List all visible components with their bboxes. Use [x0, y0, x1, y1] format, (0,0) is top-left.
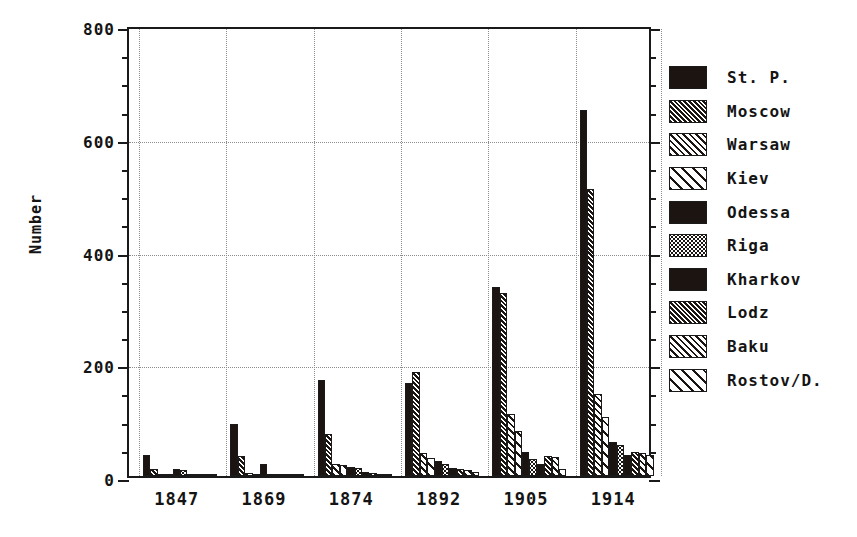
- y-axis-major-tick: [118, 29, 129, 31]
- bar-1874-kharkov: [362, 472, 369, 477]
- bar-1914-odessa: [609, 442, 616, 476]
- legend-label: Kiev: [727, 169, 770, 188]
- bar-1847-kiev: [165, 474, 172, 476]
- legend-swatch: [669, 201, 707, 224]
- bar-1914-baku: [639, 453, 646, 476]
- legend-swatch: [669, 369, 707, 392]
- bar-1914-warsaw: [594, 394, 601, 476]
- x-axis-tick-label: 1869: [242, 489, 287, 509]
- bar-1874-lodz: [369, 473, 376, 476]
- bar-1914-kharkov: [624, 455, 631, 476]
- bar-1892-riga: [442, 464, 449, 476]
- legend-item-riga[interactable]: Riga: [669, 229, 823, 263]
- y-axis-tick-label: 800: [83, 20, 115, 39]
- legend-label: Baku: [727, 337, 770, 356]
- legend-item-rostov-d[interactable]: Rostov/D.: [669, 363, 823, 397]
- y-axis-major-tick: [118, 480, 129, 482]
- bar-1905-lodz: [544, 456, 551, 476]
- bar-1847-moscow: [150, 469, 157, 476]
- legend-swatch: [669, 167, 707, 190]
- y-axis-major-tick: [118, 255, 129, 257]
- bar-1874-st-p: [318, 380, 325, 476]
- chart-legend: St. P.MoscowWarsawKievOdessaRigaKharkovL…: [669, 61, 823, 397]
- y-axis-minor-tick: [122, 395, 129, 397]
- legend-label: Warsaw: [727, 135, 791, 154]
- bar-1869-lodz: [282, 474, 289, 476]
- bar-1874-odessa: [347, 467, 354, 476]
- bar-1847-baku: [202, 474, 209, 476]
- bar-1874-kiev: [340, 465, 347, 476]
- bar-1869-odessa: [260, 464, 267, 476]
- bar-group-1847: [129, 29, 216, 476]
- y-axis-minor-tick: [122, 57, 129, 59]
- y-axis-tick-label: 400: [83, 245, 115, 264]
- x-axis-tick-label: 1847: [154, 489, 199, 509]
- bar-1905-kiev: [515, 431, 522, 476]
- bar-1914-lodz: [631, 452, 638, 476]
- legend-swatch: [669, 234, 707, 257]
- bar-1905-warsaw: [507, 414, 514, 476]
- x-axis-tick-label: 1905: [504, 489, 549, 509]
- legend-swatch: [669, 335, 707, 358]
- bar-1914-riga: [617, 445, 624, 476]
- legend-item-moscow[interactable]: Moscow: [669, 95, 823, 129]
- legend-item-baku[interactable]: Baku: [669, 330, 823, 364]
- bar-1869-kharkov: [275, 474, 282, 476]
- bar-group-1914: [566, 29, 653, 476]
- legend-label: Riga: [727, 236, 770, 255]
- gridline-vertical: [661, 29, 662, 476]
- bar-1874-warsaw: [332, 464, 339, 476]
- bar-1914-kiev: [602, 417, 609, 476]
- bar-1847-warsaw: [158, 474, 165, 476]
- bar-1874-riga: [355, 468, 362, 476]
- bar-1869-kiev: [253, 474, 260, 476]
- legend-label: Odessa: [727, 203, 791, 222]
- y-axis-minor-tick: [122, 311, 129, 313]
- y-axis-tick-label: 200: [83, 358, 115, 377]
- bar-1847-riga: [180, 470, 187, 476]
- bar-1874-baku: [377, 474, 384, 476]
- bar-1905-riga: [529, 459, 536, 476]
- bar-1905-kharkov: [537, 464, 544, 476]
- legend-label: Lodz: [727, 303, 770, 322]
- bar-1869-moscow: [238, 456, 245, 476]
- bar-1892-odessa: [435, 461, 442, 476]
- plot-area: 0200400600800: [127, 27, 651, 478]
- y-axis-minor-tick: [122, 170, 129, 172]
- bar-1874-moscow: [325, 434, 332, 476]
- y-axis-major-tick: [118, 142, 129, 144]
- y-axis-minor-tick: [122, 339, 129, 341]
- bar-group-1869: [216, 29, 303, 476]
- bar-1892-st-p: [405, 383, 412, 476]
- legend-label: Rostov/D.: [727, 371, 823, 390]
- bar-1914-rostov-d: [646, 455, 653, 476]
- bar-1847-lodz: [195, 474, 202, 476]
- legend-swatch: [669, 100, 707, 123]
- x-axis-tick-label: 1874: [329, 489, 374, 509]
- y-axis-major-tick: [118, 367, 129, 369]
- legend-item-kharkov[interactable]: Kharkov: [669, 263, 823, 297]
- legend-label: Kharkov: [727, 270, 801, 289]
- y-axis-minor-tick: [122, 198, 129, 200]
- y-axis-minor-tick: [122, 452, 129, 454]
- bar-1847-kharkov: [187, 474, 194, 476]
- y-axis-tick-label: 600: [83, 132, 115, 151]
- legend-item-warsaw[interactable]: Warsaw: [669, 128, 823, 162]
- legend-label: St. P.: [727, 68, 791, 87]
- legend-item-kiev[interactable]: Kiev: [669, 162, 823, 196]
- legend-item-lodz[interactable]: Lodz: [669, 296, 823, 330]
- bar-1892-baku: [464, 470, 471, 476]
- y-axis-minor-tick: [122, 114, 129, 116]
- legend-item-odessa[interactable]: Odessa: [669, 195, 823, 229]
- bar-1869-st-p: [230, 424, 237, 476]
- bar-1892-kiev: [427, 458, 434, 476]
- y-axis-minor-tick: [122, 283, 129, 285]
- bar-1892-moscow: [412, 372, 419, 476]
- bar-1869-warsaw: [245, 473, 252, 476]
- legend-item-st-p[interactable]: St. P.: [669, 61, 823, 95]
- bar-1892-lodz: [457, 469, 464, 476]
- bar-1914-st-p: [580, 110, 587, 476]
- legend-swatch: [669, 66, 707, 89]
- x-axis-tick-label: 1914: [591, 489, 636, 509]
- bar-group-1874: [304, 29, 391, 476]
